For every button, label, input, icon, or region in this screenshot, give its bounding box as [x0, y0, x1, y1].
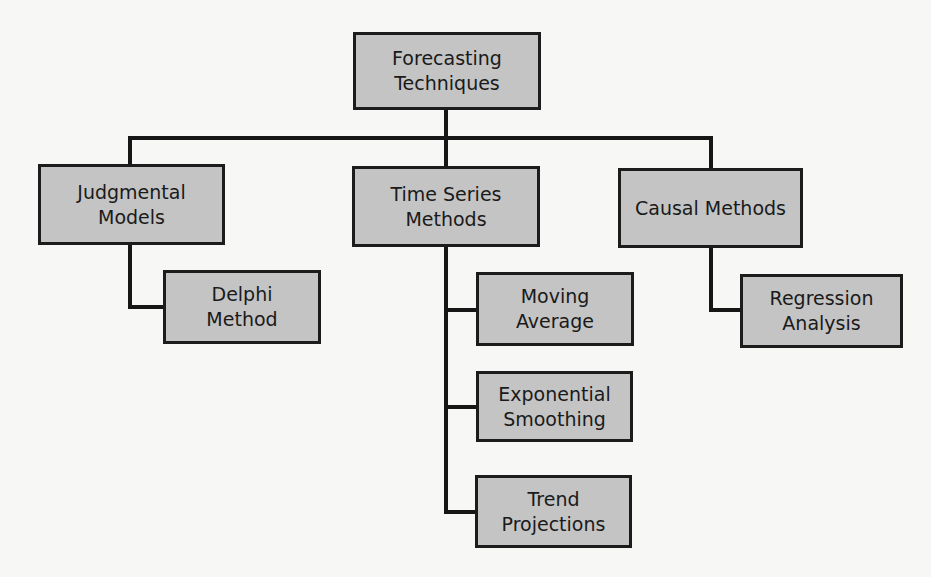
node-exponential-smoothing: Exponential Smoothing	[476, 371, 633, 442]
node-label: Moving Average	[516, 284, 594, 334]
node-label: Causal Methods	[635, 196, 786, 221]
node-trend-projections: Trend Projections	[475, 475, 632, 548]
node-moving-average: Moving Average	[476, 272, 634, 346]
connector-to-causal	[709, 136, 713, 170]
node-judgmental-models: Judgmental Models	[38, 164, 225, 245]
node-label: Time Series Methods	[391, 182, 502, 232]
connector-to-regression	[709, 308, 741, 312]
node-time-series-methods: Time Series Methods	[352, 166, 540, 247]
connector-to-delphi	[128, 305, 164, 309]
connector-horizontal-bus	[128, 136, 713, 140]
node-delphi-method: Delphi Method	[163, 270, 321, 344]
connector-judgmental-down	[128, 243, 132, 309]
node-label: Judgmental Models	[77, 180, 185, 230]
connector-to-exponential	[444, 405, 477, 409]
node-regression-analysis: Regression Analysis	[740, 274, 903, 348]
node-causal-methods: Causal Methods	[618, 168, 803, 248]
connector-to-timeseries	[444, 136, 448, 168]
node-label: Trend Projections	[502, 487, 606, 537]
node-label: Exponential Smoothing	[498, 382, 610, 432]
connector-causal-down	[709, 246, 713, 312]
node-label: Regression Analysis	[770, 286, 874, 336]
connector-to-moving-average	[444, 308, 477, 312]
connector-to-judgmental	[128, 136, 132, 166]
node-label: Forecasting Techniques	[392, 46, 502, 96]
node-forecasting-techniques: Forecasting Techniques	[353, 32, 541, 110]
connector-timeseries-down	[444, 245, 448, 514]
connector-to-trend	[444, 510, 477, 514]
node-label: Delphi Method	[206, 282, 277, 332]
